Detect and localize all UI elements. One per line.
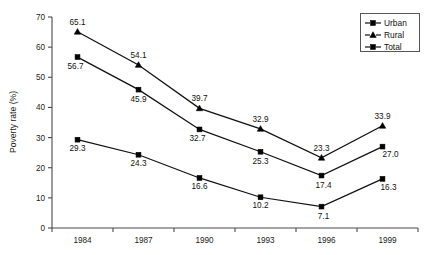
x-tick-label: 1987 [134, 236, 153, 245]
legend[interactable]: UrbanRuralTotal [361, 14, 420, 53]
y-tick-label: 40 [36, 103, 46, 112]
y-axis-tick-labels: 010203040506070 [36, 13, 46, 233]
point-label-urban-1984: 29.3 [70, 144, 86, 153]
x-axis-tick-labels: 198419871990199319961999 [73, 236, 397, 245]
data-point-total-1987 [136, 87, 141, 92]
y-axis-title: Poverty rate (%) [8, 91, 18, 153]
data-point-total-1999 [380, 144, 385, 149]
y-tick-label: 70 [36, 13, 46, 22]
data-point-total-1984 [75, 55, 80, 60]
point-label-urban-1999: 16.3 [381, 183, 397, 192]
y-tick-label: 0 [40, 224, 45, 233]
y-tick-label: 30 [36, 134, 46, 143]
data-point-rural-1999 [379, 123, 385, 129]
poverty-rate-line-chart: 010203040506070 198419871990199319961999… [0, 0, 433, 255]
data-point-urban-1999 [380, 176, 385, 181]
point-label-rural-1999: 33.9 [375, 112, 391, 121]
data-point-total-1993 [258, 149, 263, 154]
point-label-rural-1987: 54.1 [131, 51, 147, 60]
data-point-urban-1984 [75, 137, 80, 142]
legend-label-urban[interactable]: Urban [384, 18, 407, 28]
x-tick-label: 1990 [195, 236, 214, 245]
legend-marker-urban [371, 21, 376, 26]
legend-label-total[interactable]: Total [384, 42, 402, 52]
series-line-rural [78, 32, 383, 158]
data-point-urban-1990 [197, 176, 202, 181]
point-label-urban-1996: 7.1 [318, 212, 330, 221]
series-line-total [78, 57, 383, 175]
legend-label-rural[interactable]: Rural [384, 30, 404, 40]
y-tick-label: 10 [36, 194, 46, 203]
y-tick-label: 20 [36, 164, 46, 173]
y-tick-label: 60 [36, 43, 46, 52]
x-tick-label: 1999 [378, 236, 397, 245]
x-tick-label: 1993 [256, 236, 275, 245]
point-label-total-1987: 45.9 [131, 95, 147, 104]
point-label-total-1984: 56.7 [68, 62, 84, 71]
point-label-rural-1996: 23.3 [314, 144, 330, 153]
data-point-total-1996 [319, 173, 324, 178]
data-point-urban-1996 [319, 204, 324, 209]
x-axis-ticks [52, 228, 418, 232]
x-tick-label: 1984 [73, 236, 92, 245]
data-point-rural-1984 [74, 29, 80, 35]
point-label-urban-1987: 24.3 [131, 159, 147, 168]
point-label-total-1996: 17.4 [316, 181, 332, 190]
point-label-rural-1993: 32.9 [253, 115, 269, 124]
series-lines-group [78, 32, 383, 207]
data-point-rural-1987 [135, 62, 141, 68]
point-label-total-1990: 32.7 [190, 134, 206, 143]
chart-canvas: 010203040506070 198419871990199319961999… [0, 0, 433, 255]
point-label-total-1999: 27.0 [383, 150, 399, 159]
x-tick-label: 1996 [317, 236, 336, 245]
legend-marker-total [371, 45, 376, 50]
point-label-total-1993: 25.3 [253, 157, 269, 166]
point-label-urban-1990: 16.6 [192, 182, 208, 191]
y-tick-label: 50 [36, 73, 46, 82]
point-label-rural-1984: 65.1 [70, 18, 86, 27]
data-point-urban-1993 [258, 195, 263, 200]
point-label-urban-1993: 10.2 [253, 201, 269, 210]
data-point-total-1990 [197, 127, 202, 132]
data-point-urban-1987 [136, 152, 141, 157]
point-label-rural-1990: 39.7 [192, 94, 208, 103]
y-axis-ticks [48, 17, 52, 228]
